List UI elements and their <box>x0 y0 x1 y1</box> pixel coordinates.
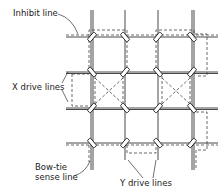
ferrite-cores <box>87 32 196 148</box>
bow-tie-label-line2: sense line <box>35 172 78 182</box>
bow-tie-sense-line <box>66 74 218 170</box>
x-drive-lines-label: X drive lines <box>12 82 65 92</box>
core-memory-diagram: Inhibit line X drive lines Bow-tie sense… <box>0 0 222 193</box>
y-drive-lines-label: Y drive lines <box>119 178 172 188</box>
bow-tie-label-line1: Bow-tie <box>35 162 67 172</box>
inhibit-line-label: Inhibit line <box>13 8 58 18</box>
y-drive-lines <box>91 10 194 170</box>
